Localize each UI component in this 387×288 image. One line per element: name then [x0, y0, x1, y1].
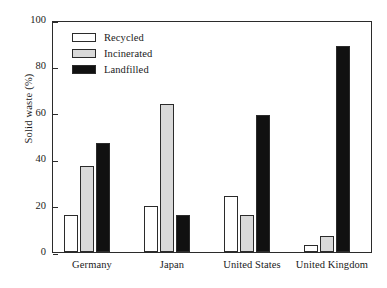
legend-label: Landfilled: [104, 64, 149, 75]
bar-landfilled-japan: [176, 215, 190, 252]
bar-recycled-united-kingdom: [304, 245, 318, 252]
bar-landfilled-germany: [96, 143, 110, 252]
bar-recycled-united-states: [224, 196, 238, 252]
y-tick-mark: [53, 254, 58, 255]
y-axis-title: Solid waste (%): [23, 19, 34, 199]
legend-item-landfilled: Landfilled: [72, 62, 152, 76]
bar-incinerated-united-kingdom: [320, 236, 334, 252]
bar-recycled-germany: [64, 215, 78, 252]
bar-incinerated-germany: [80, 166, 94, 252]
bar-group: [213, 22, 293, 252]
legend-swatch-icon: [72, 49, 96, 58]
x-axis-label: United States: [223, 259, 281, 270]
bar-incinerated-japan: [160, 104, 174, 252]
bar-landfilled-united-kingdom: [336, 46, 350, 252]
bar-chart: Solid waste (%) 020406080100 GermanyJapa…: [0, 0, 387, 288]
y-tick-label: 40: [36, 153, 47, 164]
bar-incinerated-united-states: [240, 215, 254, 252]
legend-item-recycled: Recycled: [72, 30, 152, 44]
y-tick-label: 60: [36, 107, 47, 118]
legend-item-incinerated: Incinerated: [72, 46, 152, 60]
y-tick-label: 0: [41, 246, 46, 257]
legend-swatch-icon: [72, 33, 96, 42]
x-axis-label: United Kingdom: [296, 259, 368, 270]
legend-swatch-icon: [72, 65, 96, 74]
legend-label: Recycled: [104, 32, 144, 43]
y-tick-label: 80: [36, 60, 47, 71]
y-tick-label: 20: [36, 200, 47, 211]
bar-group: [293, 22, 373, 252]
bar-recycled-japan: [144, 206, 158, 252]
x-axis-label: Japan: [160, 259, 184, 270]
bar-landfilled-united-states: [256, 115, 270, 252]
x-axis-label: Germany: [72, 259, 112, 270]
y-tick-label: 100: [30, 14, 46, 25]
legend-label: Incinerated: [104, 48, 152, 59]
chart-legend: RecycledIncineratedLandfilled: [72, 30, 152, 78]
